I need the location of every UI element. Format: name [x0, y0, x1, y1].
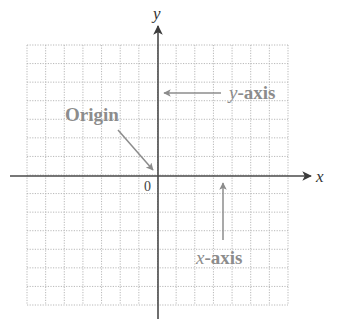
y-axis-annotation-var: y [227, 82, 238, 103]
coordinate-plane-svg: y x 0 Origin y-axis x-axis [0, 0, 338, 332]
x-axis-annotation: x-axis [195, 247, 242, 268]
x-axis-label: x [315, 167, 324, 186]
origin-annotation-label: Origin [65, 104, 119, 125]
x-axis-annotation-suffix: -axis [204, 247, 242, 268]
y-axis-label: y [151, 4, 161, 23]
y-axis-annotation: y-axis [227, 82, 275, 103]
origin-zero-label: 0 [144, 179, 151, 194]
coordinate-plane-diagram: y x 0 Origin y-axis x-axis [0, 0, 338, 332]
y-axis-annotation-suffix: -axis [237, 82, 275, 103]
origin-pointer-arrow [118, 130, 153, 170]
